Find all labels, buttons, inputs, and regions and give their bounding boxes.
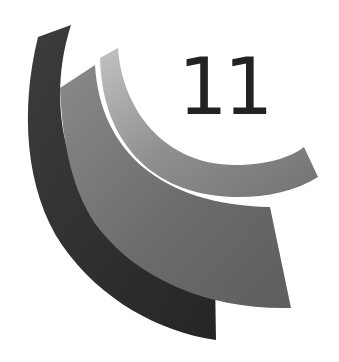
logo-graphic (0, 0, 339, 362)
logo-number: 11 (178, 48, 269, 126)
